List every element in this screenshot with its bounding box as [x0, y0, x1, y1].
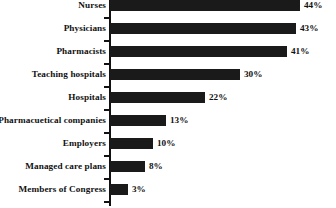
bar-row: Employers 10%	[0, 138, 336, 150]
bar-row: Hospitals 22%	[0, 92, 336, 104]
bar-row: Pharmacuetical companies 13%	[0, 115, 336, 127]
axis-tick	[104, 132, 109, 134]
value-label: 3%	[132, 183, 146, 195]
axis-tick	[104, 178, 109, 180]
category-label: Hospitals	[68, 91, 106, 103]
category-label: Pharmacuetical companies	[0, 114, 106, 126]
axis-tick	[104, 40, 109, 42]
axis-tick	[104, 109, 109, 111]
axis-tick	[104, 86, 109, 88]
category-label: Members of Congress	[19, 183, 106, 195]
bar-row: Nurses 44%	[0, 0, 336, 12]
bar-row: Physicians 43%	[0, 23, 336, 35]
value-label: 8%	[149, 160, 163, 172]
value-label: 30%	[244, 68, 262, 80]
value-label: 10%	[157, 137, 175, 149]
value-label: 22%	[209, 91, 227, 103]
axis-tick	[104, 63, 109, 65]
bar	[110, 138, 153, 149]
bar	[110, 0, 300, 11]
category-label: Employers	[63, 137, 106, 149]
bar	[110, 115, 166, 126]
category-label: Teaching hospitals	[32, 68, 106, 80]
category-label: Physicians	[64, 22, 106, 34]
bar	[110, 184, 128, 195]
value-label: 43%	[300, 22, 318, 34]
bar	[110, 69, 240, 80]
category-label: Pharmacists	[56, 45, 106, 57]
axis-tick	[104, 17, 109, 19]
value-label: 41%	[291, 45, 309, 57]
bar	[110, 46, 287, 57]
bar-row: Teaching hospitals 30%	[0, 69, 336, 81]
category-label: Managed care plans	[25, 160, 106, 172]
bar-row: Managed care plans 8%	[0, 161, 336, 173]
bar	[110, 23, 296, 34]
axis-tick	[104, 155, 109, 157]
value-label: 13%	[170, 114, 188, 126]
value-label: 44%	[304, 0, 322, 11]
bar-row: Pharmacists 41%	[0, 46, 336, 58]
category-label: Nurses	[78, 0, 106, 11]
axis-tick	[104, 201, 109, 203]
bar	[110, 92, 205, 103]
bar-row: Members of Congress 3%	[0, 184, 336, 196]
bar	[110, 161, 145, 172]
horizontal-bar-chart: Nurses 44% Physicians 43% Pharmacists 41…	[0, 0, 336, 208]
